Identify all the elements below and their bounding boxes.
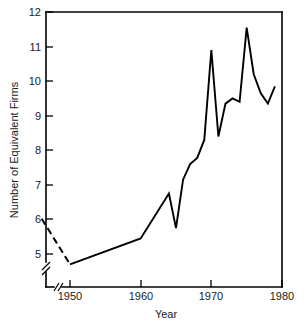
y-tick-label-12: 12: [29, 6, 41, 18]
x-tick-label-1980: 1980: [270, 290, 294, 302]
x-axis-ticks: [70, 280, 282, 287]
x-tick-label-1970: 1970: [199, 290, 223, 302]
y-tick-label-7: 7: [35, 179, 41, 191]
line-chart-plot: 12 11 10 9 8 7 6 5 1950 1960 1970 1980 Y…: [0, 0, 304, 327]
y-tick-label-8: 8: [35, 144, 41, 156]
y-tick-label-5: 5: [35, 248, 41, 260]
x-axis-title: Year: [155, 308, 178, 320]
x-tick-label-1950: 1950: [58, 290, 82, 302]
chart-figure: 12 11 10 9 8 7 6 5 1950 1960 1970 1980 Y…: [0, 0, 304, 327]
y-axis-title: Number of Equivalent Firms: [8, 81, 20, 218]
y-axis-ticks: [46, 12, 53, 254]
y-tick-labels: 12 11 10 9 8 7 6 5: [29, 6, 41, 260]
data-line-main: [70, 28, 275, 265]
x-tick-labels: 1950 1960 1970 1980: [58, 290, 294, 302]
y-tick-label-9: 9: [35, 110, 41, 122]
y-tick-label-6: 6: [35, 213, 41, 225]
y-tick-label-11: 11: [30, 41, 41, 53]
y-tick-label-10: 10: [29, 75, 41, 87]
x-tick-label-1960: 1960: [129, 290, 153, 302]
plot-axes: [46, 12, 282, 287]
